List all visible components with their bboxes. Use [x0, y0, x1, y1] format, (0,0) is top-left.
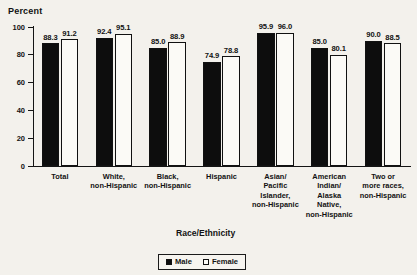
bar-male: [96, 38, 114, 166]
bar-female: [276, 33, 294, 166]
legend-item-female: Female: [203, 257, 238, 266]
bar-male: [42, 43, 60, 166]
bar-value-label: 88.5: [381, 33, 404, 42]
bar-group: 92.495.1: [87, 27, 141, 166]
bar-female: [168, 42, 186, 166]
bar-female: [330, 55, 348, 166]
y-tick-label: 60: [3, 78, 25, 87]
x-category-label: Two ormore races,non-Hispanic: [350, 172, 416, 200]
bar-value-label: 78.8: [220, 46, 243, 55]
bar-female: [384, 43, 402, 166]
legend-label-female: Female: [212, 257, 238, 266]
y-tick-label: 0: [3, 162, 25, 171]
y-tick-label: 20: [3, 134, 25, 143]
bar-male: [311, 48, 329, 166]
bar-group: 95.996.0: [248, 27, 302, 166]
bar-value-label: 96.0: [274, 22, 297, 31]
bar-value-label: 91.2: [58, 29, 81, 38]
bar-group: 74.978.8: [195, 27, 249, 166]
bar-male: [365, 41, 383, 166]
bar-value-label: 88.9: [166, 32, 189, 41]
bar-female: [61, 39, 79, 166]
bar-male: [203, 62, 221, 166]
y-tick-label: 100: [3, 23, 25, 32]
y-tick-label: 40: [3, 106, 25, 115]
plot-area: 88.391.292.495.185.088.974.978.895.996.0…: [33, 27, 410, 166]
bar-male: [257, 33, 275, 166]
legend-label-male: Male: [175, 257, 192, 266]
legend-item-male: Male: [166, 257, 192, 266]
bar-male: [149, 48, 167, 166]
bar-group: 88.391.2: [33, 27, 87, 166]
bar-value-label: 95.1: [112, 23, 135, 32]
legend-swatch-male-icon: [166, 259, 172, 265]
x-axis-title: Race/Ethnicity: [176, 228, 235, 238]
y-axis-title: Percent: [8, 6, 42, 16]
bar-chart: Percent 020406080100 88.391.292.495.185.…: [0, 0, 417, 275]
x-axis-line: [32, 166, 411, 167]
legend-swatch-female-icon: [203, 259, 209, 265]
bar-female: [222, 56, 240, 166]
bar-group: 85.080.1: [302, 27, 356, 166]
legend: Male Female: [158, 254, 246, 270]
bar-group: 85.088.9: [141, 27, 195, 166]
bar-female: [115, 34, 133, 166]
y-tick-label: 80: [3, 50, 25, 59]
bar-value-label: 80.1: [327, 44, 350, 53]
bar-group: 90.088.5: [356, 27, 410, 166]
